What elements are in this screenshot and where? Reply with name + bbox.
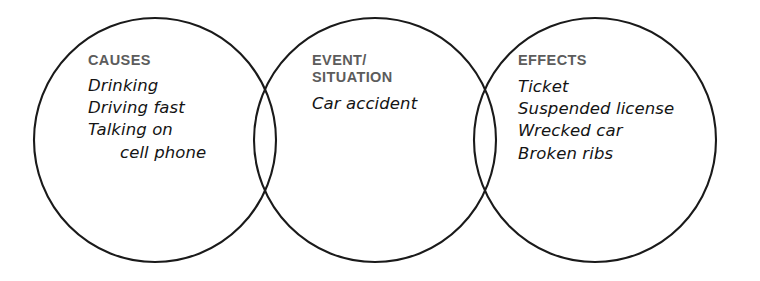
list-item: Car accident	[312, 93, 482, 115]
region-causes: CAUSES Drinking Driving fast Talking on …	[88, 52, 260, 164]
list-item: Wrecked car	[518, 120, 728, 142]
region-effects: EFFECTS Ticket Suspended license Wrecked…	[518, 52, 728, 165]
list-item: Broken ribs	[518, 143, 728, 165]
venn-diagram: CAUSES Drinking Driving fast Talking on …	[0, 0, 760, 281]
region-effects-list: Ticket Suspended license Wrecked car Bro…	[518, 76, 728, 165]
list-item: Talking on	[88, 119, 260, 141]
region-event: EVENT/ SITUATION Car accident	[312, 52, 482, 115]
region-causes-list: Drinking Driving fast Talking on cell ph…	[88, 75, 260, 164]
list-item: cell phone	[88, 142, 260, 164]
list-item: Drinking	[88, 75, 260, 97]
list-item: Suspended license	[518, 98, 728, 120]
list-item: Driving fast	[88, 97, 260, 119]
diagram-text-layer: CAUSES Drinking Driving fast Talking on …	[0, 0, 760, 281]
region-event-list: Car accident	[312, 93, 482, 115]
region-event-heading: EVENT/ SITUATION	[312, 52, 482, 86]
region-causes-heading: CAUSES	[88, 52, 260, 69]
region-effects-heading: EFFECTS	[518, 52, 728, 69]
list-item: Ticket	[518, 76, 728, 98]
